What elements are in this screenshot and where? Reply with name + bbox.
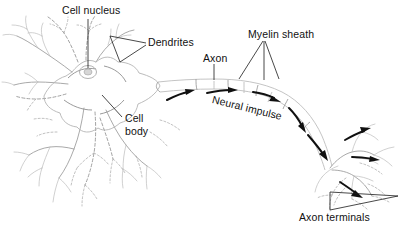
label-dendrites: Dendrites	[148, 36, 194, 48]
label-cell-body-line1: Cell	[125, 112, 144, 125]
leader-myelin-left	[239, 41, 263, 79]
leader-cell-body	[102, 95, 122, 117]
leader-myelin-right	[265, 41, 279, 79]
neuron-illustration	[0, 0, 414, 232]
terminal-release-arrows	[340, 127, 380, 198]
label-cell-body-line2: body	[125, 125, 148, 138]
nucleolus	[84, 69, 92, 75]
label-axon-terminals: Axon terminals	[299, 211, 370, 223]
neuron-diagram-canvas: Cell nucleus Dendrites Axon Myelin sheat…	[0, 0, 414, 232]
leader-terminals-close	[330, 192, 398, 196]
label-axon: Axon	[203, 52, 227, 64]
label-myelin-sheath: Myelin sheath	[248, 28, 314, 40]
axon-terminals-tree	[315, 124, 394, 211]
leader-terminals-right	[330, 196, 398, 210]
leader-dendrites-lower	[120, 45, 146, 62]
label-cell-nucleus: Cell nucleus	[62, 4, 120, 16]
